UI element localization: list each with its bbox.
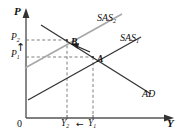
point-label-a: A	[97, 55, 103, 65]
ad-sas-diagram: P Y 0 P2 P1 ↑ Y2 ← Y1 SAS2 SAS1 AD B A	[0, 0, 182, 136]
point-label-b: B	[71, 38, 77, 48]
y-axis-arrowhead	[23, 8, 30, 18]
axis-group	[23, 8, 174, 121]
price-up-arrow-icon: ↑	[16, 42, 25, 53]
curve-label-sas2: SAS2	[97, 13, 116, 23]
x-axis-label: Y	[167, 118, 174, 129]
curve-label-ad: AD	[142, 89, 155, 99]
curve-label-sas1-sub: 1	[136, 37, 139, 44]
tick-label-y1: Y1	[88, 119, 96, 129]
origin-label: 0	[17, 119, 22, 129]
curve-label-sas2-base: SAS	[97, 12, 113, 23]
tick-label-p1-sub: 1	[17, 54, 20, 60]
point-marker-a	[92, 56, 94, 58]
diagram-canvas	[0, 0, 182, 136]
curve-label-sas1: SAS1	[120, 33, 139, 43]
point-marker-b	[66, 39, 68, 41]
curve-label-sas2-sub: 2	[113, 17, 116, 24]
tick-label-y2-sub: 2	[66, 123, 69, 129]
tick-label-y2: Y2	[61, 119, 69, 129]
tick-label-y1-sub: 1	[93, 123, 96, 129]
y-axis-label: P	[14, 6, 21, 17]
curve-label-sas1-base: SAS	[120, 32, 136, 43]
output-left-arrow-icon: ←	[76, 120, 84, 129]
curve-sas1	[28, 37, 141, 100]
